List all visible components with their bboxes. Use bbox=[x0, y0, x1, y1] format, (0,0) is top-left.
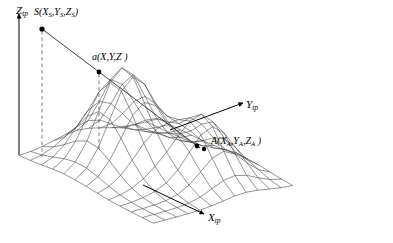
mesh-line bbox=[65, 82, 199, 210]
y-axis-line bbox=[170, 103, 243, 130]
mesh-line bbox=[100, 96, 234, 196]
point-marker-s bbox=[39, 26, 44, 31]
point-marker-a bbox=[97, 70, 102, 75]
axes-group bbox=[19, 14, 243, 214]
projection-ray-group bbox=[42, 29, 200, 148]
x-axis-label: Xtp bbox=[208, 212, 221, 223]
mesh-line bbox=[64, 68, 203, 174]
mesh-line bbox=[89, 75, 223, 201]
point-label-s: S(XS,YS,ZS) bbox=[34, 7, 78, 17]
terrain-projection-figure: Ztp Ytp Xtp S(XS,YS,ZS) a(X,Y,Z ) A(XA,Y… bbox=[0, 0, 393, 243]
z-axis-label: Ztp bbox=[16, 5, 28, 16]
point-marker-A-secondary bbox=[202, 147, 206, 151]
projection-ray bbox=[42, 29, 200, 148]
point-marker-A bbox=[195, 144, 200, 149]
mesh-line bbox=[41, 101, 180, 164]
x-axis-line bbox=[143, 185, 204, 214]
y-axis-label: Ytp bbox=[246, 99, 258, 110]
scene-svg bbox=[0, 0, 393, 243]
mesh-line bbox=[30, 120, 169, 160]
point-label-A: A(XA,YA,ZA ) bbox=[211, 136, 261, 146]
drop-lines-group bbox=[42, 31, 99, 157]
mesh-line bbox=[158, 119, 292, 186]
mesh-line bbox=[42, 141, 176, 217]
mesh-line bbox=[112, 114, 246, 192]
point-label-a: a(X,Y,Z ) bbox=[92, 52, 128, 62]
